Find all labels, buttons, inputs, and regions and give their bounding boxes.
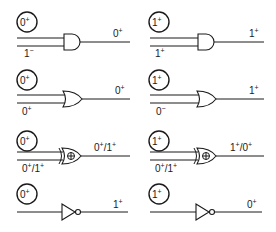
output-label: 1+: [249, 27, 259, 39]
not-gate-icon: [62, 204, 75, 220]
inversion-bubble-icon: [76, 210, 81, 215]
panel-xor-0: 0+ 0+/1+ 0+/1+: [17, 131, 130, 174]
input-bottom-label: 1−: [24, 47, 34, 59]
output-label: 1+: [113, 198, 123, 210]
inversion-bubble-icon: [210, 210, 215, 215]
panel-not-1: 1+ 0+: [149, 184, 262, 220]
and-gate-icon: [64, 34, 80, 50]
panel-and-1: 1+ 1+ 1+: [149, 12, 264, 59]
panel-not-0: 0+ 1+: [17, 184, 128, 220]
panel-and-0: 0+ 1− 0+: [17, 12, 130, 59]
xor-input-curve: [194, 148, 197, 164]
output-label: 0+/1+: [94, 141, 116, 153]
output-label: 0+: [115, 84, 125, 96]
input-bottom-label: 1+: [155, 47, 165, 59]
panel-xor-1: 1+ 0+/1+ 1+/0+: [149, 131, 264, 174]
or-gate-icon: [197, 91, 216, 107]
output-label: 0+: [247, 198, 257, 210]
input-bottom-label: 0+/1+: [22, 162, 44, 174]
panel-or-0: 0+ 0+ 0+: [17, 70, 130, 117]
output-label: 1+: [249, 84, 259, 96]
logic-gate-diagram: 0+ 1− 0+ 1+ 1+ 1+ 0+ 0+ 0+ 1+ 0− 1: [0, 0, 276, 232]
and-gate-icon: [198, 34, 214, 50]
output-label: 1+/0+: [230, 141, 252, 153]
input-bottom-label: 0+: [22, 105, 32, 117]
panel-or-1: 1+ 0− 1+: [149, 70, 264, 117]
output-label: 0+: [113, 27, 123, 39]
xor-input-curve: [59, 148, 62, 164]
input-bottom-label: 0−: [156, 105, 166, 117]
or-gate-icon: [63, 91, 82, 107]
input-bottom-label: 0+/1+: [155, 162, 177, 174]
not-gate-icon: [196, 204, 209, 220]
